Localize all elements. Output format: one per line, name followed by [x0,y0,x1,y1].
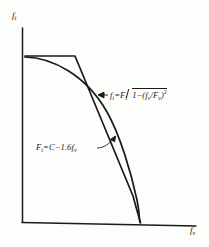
plot-canvas [0,0,209,247]
y-axis-label-subscript: t [15,14,17,21]
ellipse-leader-arrowhead [98,92,104,98]
radicand-prefix: 1−( [132,90,145,100]
axes-group [22,28,196,226]
x-axis-label-subscript: v [193,229,196,236]
ellipse-equation-leader [98,92,108,98]
y-axis-label: ft [12,11,16,22]
linear-equation-annotation: Ft=C−1.6fv [36,143,77,153]
square-root-icon: 1−(fv/Fv)2 [127,88,167,101]
radical-vinculum [132,88,167,89]
radicand-exponent: 2 [164,89,167,95]
elliptical-curve [25,57,140,222]
linear-eq-coefficient: 1.6 [61,142,72,152]
x-axis-line [22,223,196,227]
interaction-diagram-figure: ft fv ft=Ft1−(fv/Fv)2 Ft=C−1.6fv [0,0,209,247]
ellipse-eq-radicand: 1−(fv/Fv)2 [132,88,167,101]
linear-eq-variable-subscript: v [74,147,77,153]
x-axis-label: fv [190,226,195,237]
ellipse-equation-annotation: ft=Ft1−(fv/Fv)2 [110,88,167,101]
